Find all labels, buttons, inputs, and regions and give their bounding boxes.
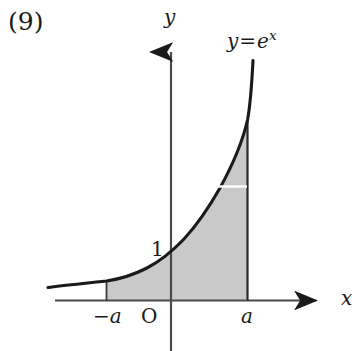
curve-equation-equals: =: [238, 29, 257, 53]
curve-equation-exponent: x: [269, 27, 277, 43]
x-tick-label-a: a: [241, 306, 253, 326]
shaded-area-under-curve: [107, 120, 248, 301]
y-axis-label: y: [164, 7, 175, 27]
curve-equation-lhs: y: [227, 29, 238, 53]
x-tick-label-negative-a: −a: [93, 306, 122, 326]
y-tick-label-one: 1: [151, 239, 164, 259]
problem-number-label: (9): [8, 9, 43, 34]
origin-label: O: [141, 306, 157, 326]
curve-equation-base: e: [257, 29, 269, 53]
x-axis-label: x: [341, 288, 352, 308]
curve-equation-label: y=ex: [227, 29, 277, 51]
